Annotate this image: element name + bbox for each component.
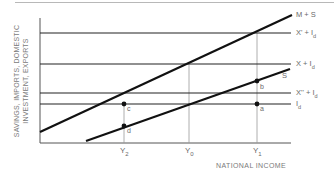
tick-y2: Y2	[120, 146, 129, 157]
x-prime-id-label: X' + Id	[296, 28, 316, 39]
point-a-marker	[255, 102, 260, 107]
point-b-marker	[255, 79, 260, 84]
point-b-label: b	[260, 83, 264, 90]
x-axis-label: NATIONAL INCOME	[216, 162, 286, 169]
point-c-marker	[122, 102, 127, 107]
point-d-marker	[122, 124, 127, 129]
point-a-label: a	[260, 105, 264, 112]
s-curve-label: S	[282, 71, 287, 80]
diagram-canvas	[0, 0, 334, 180]
tick-y1: Y1	[253, 146, 262, 157]
x-dprime-id-label: X'' + Id	[296, 88, 318, 99]
id-label: Id	[296, 99, 301, 110]
point-c-label: c	[127, 105, 131, 112]
x-id-label: X + Id	[296, 59, 315, 70]
ms-curve-label: M + S	[296, 10, 316, 19]
tick-y0: Y0	[185, 146, 194, 157]
point-d-label: d	[127, 127, 131, 134]
